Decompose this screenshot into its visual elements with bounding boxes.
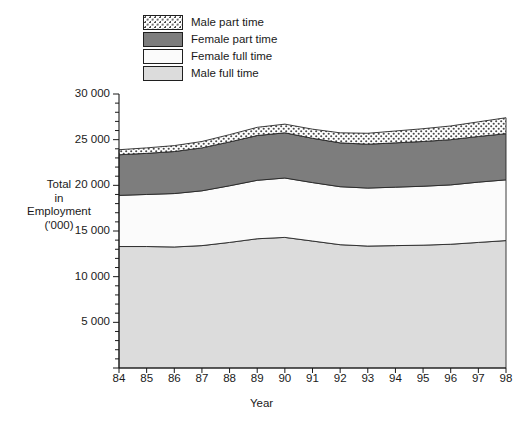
x-tick-label: 93 xyxy=(353,372,383,384)
x-tick-label: 98 xyxy=(491,372,521,384)
x-tick-label: 88 xyxy=(215,372,245,384)
plot-area: 5 00010 00015 00020 00025 00030 000 8485… xyxy=(0,0,523,424)
x-tick-label: 84 xyxy=(104,372,134,384)
x-axis-title: Year xyxy=(0,397,523,409)
y-tick-label: 30 000 xyxy=(52,87,110,99)
area-band-male-full-time xyxy=(119,237,506,368)
x-tick-label: 91 xyxy=(298,372,328,384)
stacked-area-chart: Male part time Female part time Female f… xyxy=(0,0,523,424)
y-tick-label: 5 000 xyxy=(52,315,110,327)
x-tick-label: 94 xyxy=(380,372,410,384)
x-tick-label: 90 xyxy=(270,372,300,384)
y-tick-label: 25 000 xyxy=(52,133,110,145)
area-bands xyxy=(119,118,506,368)
x-tick-label: 86 xyxy=(159,372,189,384)
y-tick-label: 20 000 xyxy=(52,178,110,190)
x-tick-label: 96 xyxy=(436,372,466,384)
plot-svg xyxy=(0,0,523,424)
x-tick-label: 85 xyxy=(132,372,162,384)
x-tick-label: 97 xyxy=(463,372,493,384)
x-tick-label: 89 xyxy=(242,372,272,384)
x-tick-label: 87 xyxy=(187,372,217,384)
y-tick-label: 10 000 xyxy=(52,270,110,282)
y-tick-label: 15 000 xyxy=(52,224,110,236)
x-tick-label: 92 xyxy=(325,372,355,384)
x-tick-label: 95 xyxy=(408,372,438,384)
